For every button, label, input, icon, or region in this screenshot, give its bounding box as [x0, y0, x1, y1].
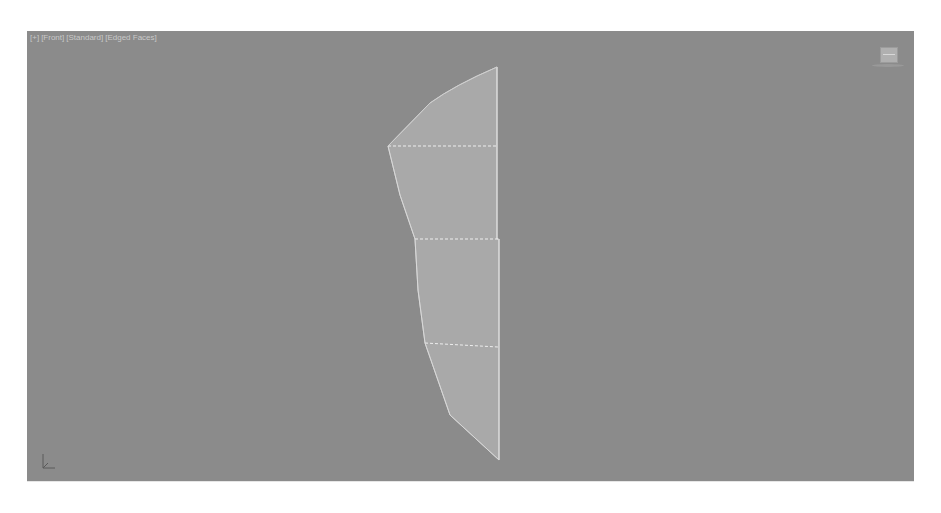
object-face[interactable]: [388, 67, 499, 460]
scene-canvas[interactable]: [0, 0, 941, 513]
editable-poly-object[interactable]: [388, 67, 499, 460]
